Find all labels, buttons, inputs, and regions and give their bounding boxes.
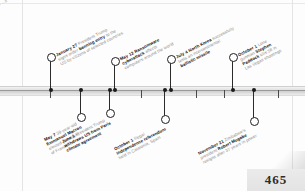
timeline-band	[0, 86, 305, 96]
event-stem	[170, 60, 171, 90]
page-curl-shadow	[265, 151, 305, 169]
event-stem	[50, 58, 51, 90]
top-rule	[0, 3, 305, 4]
event-node-dot[interactable]	[108, 88, 112, 92]
event-stem	[164, 90, 165, 118]
event-node-dot[interactable]	[49, 88, 53, 92]
event-stem	[253, 90, 254, 120]
page-number: 465	[247, 169, 305, 191]
axis-tick-down	[141, 90, 142, 98]
event-node-dot[interactable]	[113, 88, 117, 92]
timeline-page: …ed …gh …n …s January 27 President Trump…	[0, 0, 305, 191]
event-stem	[114, 62, 115, 90]
axis-tick-down	[278, 90, 279, 98]
event-node-dot[interactable]	[252, 88, 256, 92]
event-node-dot[interactable]	[79, 88, 83, 92]
event-node-dot[interactable]	[231, 88, 235, 92]
event-stem	[232, 58, 233, 90]
timeline-axis	[0, 90, 305, 91]
axis-tick-down	[224, 90, 225, 98]
event-node-dot[interactable]	[163, 88, 167, 92]
axis-tick-down	[196, 90, 197, 98]
event-node-dot[interactable]	[169, 88, 173, 92]
